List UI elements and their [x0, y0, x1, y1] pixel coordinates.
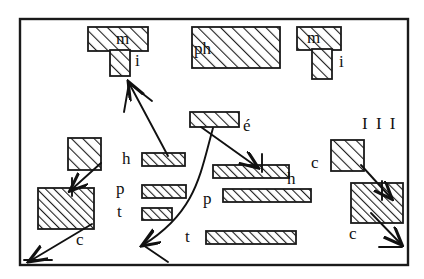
label-i-left: i — [135, 52, 140, 69]
block-c-left-small — [68, 138, 101, 170]
block-i-right-stem — [312, 49, 332, 79]
label-e-acute: é — [243, 117, 251, 134]
arrow-h-to-mi-barb2 — [124, 83, 129, 112]
block-c-right-small — [331, 140, 364, 171]
label-p-left: p — [116, 180, 125, 197]
block-c-right-big — [351, 183, 403, 223]
block-c-left-big — [38, 188, 94, 229]
label-c-right-b: c — [349, 225, 357, 242]
block-h-long-bar — [213, 165, 289, 178]
block-t-short-bar — [142, 208, 172, 220]
block-t-long-bar — [206, 231, 296, 244]
block-e-acute-bar — [190, 112, 239, 127]
label-p-right: p — [203, 190, 212, 207]
block-p-short-bar — [142, 185, 186, 198]
label-triple-i: I I I — [362, 115, 397, 132]
label-m-right: m — [307, 29, 320, 46]
label-h-left: h — [122, 150, 131, 167]
block-h-short-bar — [142, 153, 185, 166]
label-h-right: h — [287, 170, 296, 187]
label-i-right: i — [339, 53, 344, 70]
label-m-left: m — [116, 30, 129, 47]
block-i-left-stem — [110, 50, 130, 76]
label-t-right: t — [185, 228, 190, 245]
arrow-h-to-mi — [129, 83, 168, 156]
arrow-curve-barb — [143, 245, 168, 262]
label-c-right-a: c — [311, 154, 319, 171]
figure-vector-layer — [0, 0, 424, 279]
block-p-long-bar — [223, 189, 311, 202]
label-c-left: c — [76, 231, 84, 248]
label-ph: ph — [194, 40, 211, 57]
figure-canvas: m i ph m i é I I I h p t h p t c c c — [0, 0, 424, 279]
label-t-left: t — [117, 203, 122, 220]
arrow-h-to-mi-barb — [129, 83, 152, 101]
